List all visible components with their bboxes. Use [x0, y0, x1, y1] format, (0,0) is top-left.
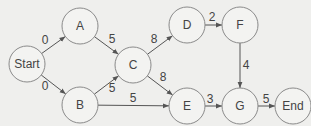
node-label: D: [183, 18, 192, 32]
edge-weight-label: 5: [263, 92, 270, 106]
node-c: C: [115, 47, 151, 83]
node-end: End: [275, 88, 311, 124]
edge-weight-label: 4: [243, 58, 250, 72]
node-label: C: [129, 58, 138, 72]
edge-weight-label: 5: [109, 32, 116, 46]
edge-weight-label: 8: [151, 32, 158, 46]
node-label: Start: [14, 57, 40, 71]
edge-weight-label: 5: [109, 81, 116, 95]
edge-weight-label: 0: [42, 33, 49, 47]
node-label: G: [235, 99, 244, 113]
edge-weight-label: 3: [207, 92, 214, 106]
node-g: G: [222, 88, 258, 124]
node-f: F: [222, 7, 258, 43]
edge-weight-label: 2: [209, 10, 216, 24]
node-e: E: [169, 88, 205, 124]
node-label: F: [236, 18, 243, 32]
network-diagram: 00555882435 StartABCDFEGEnd: [0, 0, 311, 126]
node-label: End: [282, 99, 303, 113]
node-start: Start: [9, 46, 45, 82]
node-label: E: [183, 99, 191, 113]
edge-b-e: [98, 105, 169, 106]
edge-weight-label: 0: [42, 79, 49, 93]
edge-weight-label: 5: [130, 91, 137, 105]
node-b: B: [62, 87, 98, 123]
edge-weight-label: 8: [160, 70, 167, 84]
node-label: A: [76, 19, 84, 33]
node-a: A: [62, 8, 98, 44]
node-d: D: [169, 7, 205, 43]
node-label: B: [76, 98, 84, 112]
